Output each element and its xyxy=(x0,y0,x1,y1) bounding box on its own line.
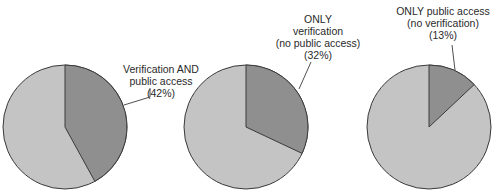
pie3-label: ONLY public access (no verification) (13… xyxy=(393,5,493,41)
label-line: Verification AND xyxy=(112,63,210,75)
label-line: (no verification) xyxy=(393,17,493,29)
pie1-label: Verification AND public access (42%) xyxy=(112,63,210,99)
label-line: (32%) xyxy=(263,49,373,61)
pie-3-leader-line xyxy=(452,45,455,70)
label-line: ONLY xyxy=(263,13,373,25)
label-line: (no public access) xyxy=(263,37,373,49)
label-line: (42%) xyxy=(112,87,210,99)
label-line: verification xyxy=(263,25,373,37)
pie-2-leader-line xyxy=(299,62,311,89)
label-line: public access xyxy=(112,75,210,87)
label-line: (13%) xyxy=(393,29,493,41)
label-line: ONLY public access xyxy=(393,5,493,17)
pie2-label: ONLY verification (no public access) (32… xyxy=(263,13,373,61)
